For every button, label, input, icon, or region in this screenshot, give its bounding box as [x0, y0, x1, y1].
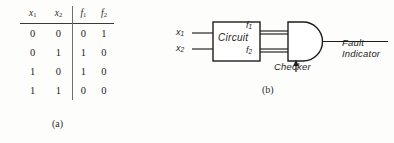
panel-b-circuit-diagram: x1 x2 Circuit f1 f2 Checker Fault Indica… [170, 0, 394, 143]
table-header-row: x1 x2 f1 f2 [20, 6, 114, 24]
caption-a: (a) [52, 118, 63, 129]
label-output-f1: f1 [246, 20, 252, 31]
cell-x2: 0 [45, 62, 72, 81]
label-output-f2: f2 [246, 45, 252, 56]
cell-x2: 1 [45, 81, 72, 100]
truth-table: x1 x2 f1 f2 0 0 0 1 0 1 1 0 [20, 6, 114, 100]
cell-f1: 0 [72, 81, 94, 100]
column-header-x2: x2 [45, 6, 72, 24]
cell-x2: 1 [45, 43, 72, 62]
column-header-f1: f1 [72, 6, 94, 24]
cell-f1: 1 [72, 62, 94, 81]
caption-b: (b) [262, 84, 274, 95]
table-row: 1 1 0 0 [20, 81, 114, 100]
panel-a-truth-table: x1 x2 f1 f2 0 0 0 1 0 1 1 0 [0, 0, 170, 143]
fault-indicator-line-1: Fault [342, 37, 364, 48]
cell-x1: 1 [20, 81, 45, 100]
table-row: 1 0 1 0 [20, 62, 114, 81]
label-input-x1: x1 [176, 27, 184, 38]
cell-f2: 1 [94, 24, 114, 44]
cell-f2: 0 [94, 81, 114, 100]
table-row: 0 1 1 0 [20, 43, 114, 62]
cell-f1: 0 [72, 24, 94, 44]
cell-x1: 0 [20, 43, 45, 62]
label-fault-indicator: Fault Indicator [342, 38, 380, 60]
cell-x1: 0 [20, 24, 45, 44]
column-header-x1: x1 [20, 6, 45, 24]
label-circuit-block: Circuit [218, 32, 248, 44]
cell-f2: 0 [94, 43, 114, 62]
cell-x1: 1 [20, 62, 45, 81]
fault-indicator-line-2: Indicator [342, 48, 380, 59]
cell-f1: 1 [72, 43, 94, 62]
truth-table-body: 0 0 0 1 0 1 1 0 1 0 1 0 1 [20, 24, 114, 101]
label-input-x2: x2 [176, 43, 184, 54]
label-checker: Checker [274, 62, 311, 73]
cell-f2: 0 [94, 62, 114, 81]
figure-root: x1 x2 f1 f2 0 0 0 1 0 1 1 0 [0, 0, 394, 143]
truth-table-header: x1 x2 f1 f2 [20, 6, 114, 24]
cell-x2: 0 [45, 24, 72, 44]
column-header-f2: f2 [94, 6, 114, 24]
and-gate-checker [288, 22, 322, 61]
table-row: 0 0 0 1 [20, 24, 114, 44]
